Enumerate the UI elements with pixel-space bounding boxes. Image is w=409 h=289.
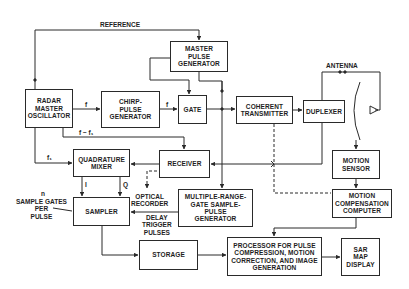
q-channel-label: Q [123,181,128,188]
reference-label: REFERENCE [100,21,140,28]
optical-recorder-label: OPTICAL RECORDER [131,193,168,208]
f-minus-f1-label: f − f₁ [79,129,93,136]
motion-sensor-label: MOTION SENSOR [342,157,370,172]
i-channel-label: I [85,181,87,188]
motion-compensation-computer-label: MOTION COMPENSATION COMPUTER [335,192,389,214]
f-to-gate-label: f [166,101,168,108]
multiple-range-gate-block: MULTIPLE-RANGE- GATE SAMPLE- PULSE GENER… [178,189,253,227]
processor-block: PROCESSOR FOR PULSE COMPRESSION, MOTION … [227,237,322,276]
sar-map-display-label: SAR MAP DISPLAY [346,246,374,268]
motion-compensation-computer-block: MOTION COMPENSATION COMPUTER [332,189,392,218]
antenna-label: ANTENNA [326,62,358,69]
f-to-chirp-label: f [85,101,87,108]
radar-master-oscillator-label: RADAR MASTER OSCILLATOR [28,97,71,119]
coherent-transmitter-block: COHERENT TRANSMITTER [236,96,293,124]
sampler-block: SAMPLER [73,197,130,226]
delay-trigger-pulses-label: DELAY TRIGGER PULSES [142,214,172,236]
duplexer-block: DUPLEXER [303,100,345,123]
coherent-transmitter-label: COHERENT TRANSMITTER [241,103,289,118]
receiver-label: RECEIVER [167,160,201,167]
chirp-pulse-generator-block: CHIRP- PULSE GENERATOR [101,91,160,128]
storage-label: STORAGE [152,251,185,258]
sample-gates-per-pulse-label: SAMPLE GATES PER PULSE [16,198,67,220]
gate-label: GATE [184,106,202,113]
multiple-range-gate-label: MULTIPLE-RANGE- GATE SAMPLE- PULSE GENER… [185,193,246,223]
quadrature-mixer-label: QUADRATURE MIXER [78,156,125,171]
processor-label: PROCESSOR FOR PULSE COMPRESSION, MOTION … [231,242,317,272]
chirp-pulse-generator-label: CHIRP- PULSE GENERATOR [110,98,152,120]
master-pulse-generator-block: MASTER PULSE GENERATOR [170,41,228,72]
quadrature-mixer-block: QUADRATURE MIXER [73,149,130,177]
motion-sensor-block: MOTION SENSOR [332,150,380,179]
sar-map-display-block: SAR MAP DISPLAY [341,238,380,276]
receiver-block: RECEIVER [159,150,210,178]
n-label: n [41,190,45,197]
master-pulse-generator-label: MASTER PULSE GENERATOR [178,45,220,67]
radar-master-oscillator-block: RADAR MASTER OSCILLATOR [25,89,73,128]
sampler-label: SAMPLER [85,208,117,215]
f1-label: f₁ [47,154,52,161]
duplexer-label: DUPLEXER [306,108,342,115]
storage-block: STORAGE [139,240,198,270]
gate-block: GATE [178,95,207,124]
